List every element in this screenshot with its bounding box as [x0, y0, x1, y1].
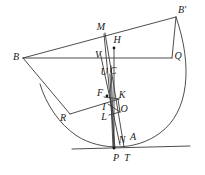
geometry-figure: B'MHBVQUCFKIORLNAPT — [0, 0, 205, 175]
point-label-H: H — [113, 35, 120, 45]
point-label-U: U — [100, 67, 107, 77]
point-label-F: F — [97, 88, 103, 98]
point-label-B-prime: B' — [178, 5, 186, 15]
point-label-L: L — [101, 112, 107, 122]
point-label-T: T — [124, 153, 130, 163]
point-label-M: M — [97, 22, 105, 32]
segment-B-to-R — [23, 58, 70, 114]
segment-F-to-K — [104, 97, 119, 99]
point-label-O: O — [120, 104, 127, 114]
segment-baseline — [72, 146, 190, 149]
dot-H — [113, 47, 116, 50]
point-label-K: K — [119, 90, 126, 100]
dot-P — [113, 147, 116, 150]
point-label-P: P — [113, 153, 119, 163]
point-label-V: V — [95, 50, 101, 60]
point-label-N: N — [119, 135, 126, 145]
point-label-B: B — [13, 52, 19, 62]
point-label-C: C — [110, 66, 117, 76]
dot-F — [106, 95, 109, 98]
point-label-R: R — [60, 113, 66, 123]
point-label-A: A — [130, 132, 136, 142]
point-label-Q: Q — [174, 51, 181, 61]
